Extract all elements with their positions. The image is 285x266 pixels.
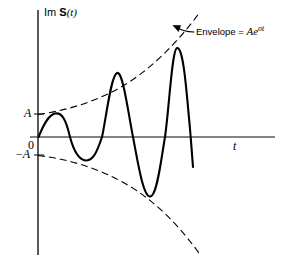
y-axis-label-arg: (t) (67, 6, 77, 18)
envelope-annotation-expression: Ae (246, 25, 258, 37)
envelope-annotation-text: Envelope (196, 26, 238, 37)
plot-canvas (0, 0, 285, 266)
tick-label-amplitude-negative: −A (16, 148, 30, 160)
y-axis-label-symbol: S (59, 6, 66, 18)
minus-sign: − (16, 147, 23, 161)
amplitude-symbol: A (23, 147, 30, 161)
envelope-annotation: Envelope = Aeσt (196, 25, 264, 37)
y-axis-label-prefix: Im (44, 6, 59, 18)
figure-container: Im S(t) A 0 −A t Envelope = Aeσt (0, 0, 285, 266)
lower-envelope-curve (38, 156, 201, 257)
x-axis-label: t (233, 140, 236, 152)
tick-label-amplitude-positive: A (24, 107, 31, 119)
annotation-arrow-head (173, 25, 180, 31)
envelope-annotation-exponent: σt (258, 24, 264, 33)
y-axis-label: Im S(t) (44, 7, 77, 18)
growing-sinusoid-curve (39, 48, 194, 197)
